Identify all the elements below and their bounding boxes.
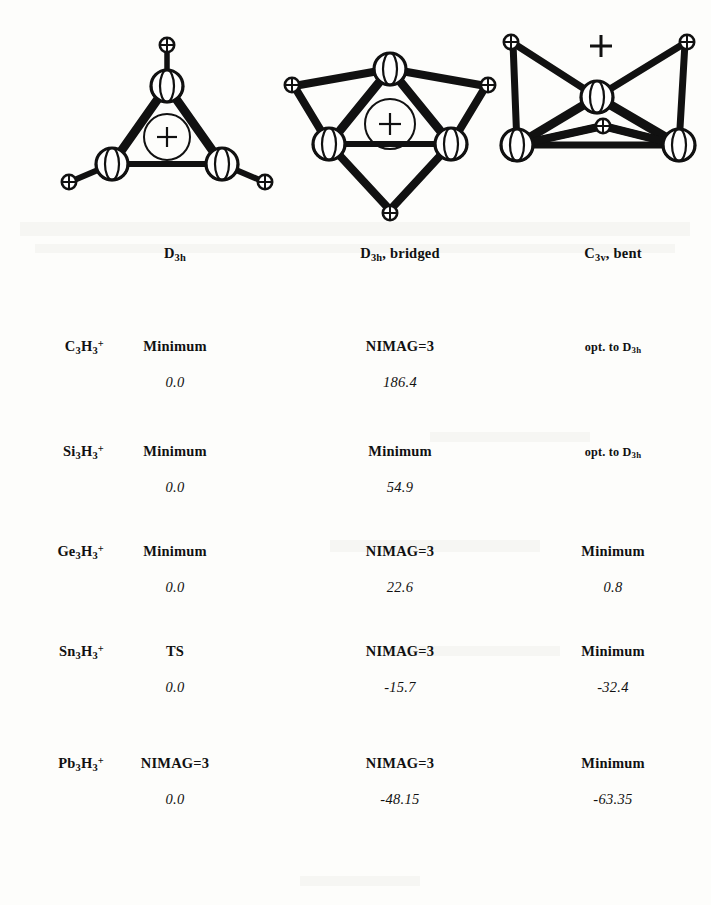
- status-bridged: NIMAG=3: [300, 543, 500, 560]
- energy-bridged: -15.7: [300, 679, 500, 696]
- heavy-atom: [313, 128, 345, 160]
- structure-figure-row: [0, 24, 711, 239]
- hydrogen-atom: [481, 78, 495, 92]
- status-bridged: NIMAG=3: [300, 755, 500, 772]
- energy-bridged: 54.9: [300, 479, 500, 496]
- structure-c3v-bent-svg: [495, 24, 705, 239]
- heavy-atom: [581, 81, 613, 113]
- table-row: Sn3H3+ TS NIMAG=3 Minimum 0.0 -15.7 -32.…: [0, 607, 711, 715]
- energy-d3h: 0.0: [104, 679, 246, 696]
- energy-bent: 0.8: [520, 579, 706, 596]
- table-row: Si3H3+ Minimum Minimum opt. to D3h 0.0 5…: [0, 402, 711, 507]
- column-header-bent: C3v, bent: [520, 245, 706, 262]
- table-row: Ge3H3+ Minimum NIMAG=3 Minimum 0.0 22.6 …: [0, 507, 711, 607]
- column-header-bridged: D3h, bridged: [300, 245, 500, 262]
- table-row: Pb3H3+ NIMAG=3 NIMAG=3 Minimum 0.0 -48.1…: [0, 715, 711, 820]
- hydrogen-atom: [258, 175, 272, 189]
- scanned-figure-page: D3h D3h, bridged C3v, bent C3H3+ Minimum…: [0, 0, 711, 905]
- hydrogen-atom: [680, 35, 694, 49]
- status-bridged: Minimum: [300, 443, 500, 460]
- energy-d3h: 0.0: [104, 791, 246, 808]
- table-row: C3H3+ Minimum NIMAG=3 opt. to D3h 0.0 18…: [0, 297, 711, 402]
- status-d3h: TS: [104, 643, 246, 660]
- hydrogen-atom: [285, 78, 299, 92]
- charge-symbol-plain: [590, 35, 612, 57]
- status-bent: opt. to D3h: [520, 445, 706, 460]
- heavy-atom: [96, 148, 128, 180]
- energy-d3h: 0.0: [104, 374, 246, 391]
- status-bent: Minimum: [520, 543, 706, 560]
- energy-d3h: 0.0: [104, 479, 246, 496]
- table-header-row: D3h D3h, bridged C3v, bent: [0, 245, 711, 297]
- heavy-atom: [435, 128, 467, 160]
- charge-symbol-circled: [144, 114, 190, 160]
- hydrogen-atom: [62, 175, 76, 189]
- column-header-d3h: D3h: [104, 245, 246, 262]
- status-d3h: Minimum: [104, 443, 246, 460]
- hydrogen-atom: [596, 119, 610, 133]
- hydrogen-atom: [504, 35, 518, 49]
- heavy-atom: [206, 148, 238, 180]
- status-bridged: NIMAG=3: [300, 338, 500, 355]
- structure-d3h-svg: [40, 24, 280, 239]
- energy-bridged: 22.6: [300, 579, 500, 596]
- scan-artifact: [300, 876, 420, 886]
- heavy-atom: [501, 129, 533, 161]
- structure-d3h: [40, 24, 280, 239]
- row-label: C3H3+: [0, 338, 104, 355]
- heavy-atom: [663, 129, 695, 161]
- status-d3h: NIMAG=3: [104, 755, 246, 772]
- row-label: Ge3H3+: [0, 543, 104, 560]
- energy-bent: -32.4: [520, 679, 706, 696]
- results-table: D3h D3h, bridged C3v, bent C3H3+ Minimum…: [0, 245, 711, 820]
- structure-c3v-bent: [495, 24, 705, 239]
- energy-d3h: 0.0: [104, 579, 246, 596]
- status-d3h: Minimum: [104, 543, 246, 560]
- status-bent: Minimum: [520, 755, 706, 772]
- status-bent: opt. to D3h: [520, 340, 706, 355]
- energy-bent: -63.35: [520, 791, 706, 808]
- structure-d3h-bridged-svg: [272, 24, 507, 239]
- energy-bridged: -48.15: [300, 791, 500, 808]
- status-bent: Minimum: [520, 643, 706, 660]
- row-label: Pb3H3+: [0, 755, 104, 772]
- energy-bridged: 186.4: [300, 374, 500, 391]
- status-bridged: NIMAG=3: [300, 643, 500, 660]
- hydrogen-atom: [383, 206, 397, 220]
- structure-d3h-bridged: [272, 24, 507, 239]
- status-d3h: Minimum: [104, 338, 246, 355]
- heavy-atom: [374, 53, 406, 85]
- hydrogen-atom: [160, 38, 174, 52]
- row-label: Si3H3+: [0, 443, 104, 460]
- heavy-atom: [151, 70, 183, 102]
- row-label: Sn3H3+: [0, 643, 104, 660]
